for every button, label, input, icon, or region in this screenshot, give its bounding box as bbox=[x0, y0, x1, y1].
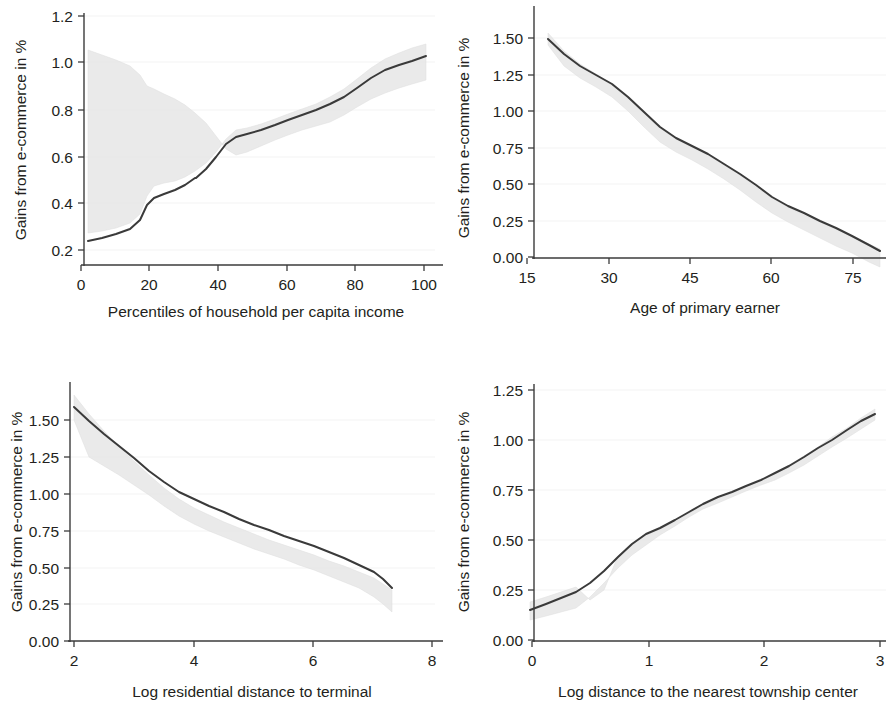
panel-2-x-ticks bbox=[527, 258, 853, 264]
panel-2-gridlines bbox=[534, 38, 886, 221]
y-tick-label: 1.2 bbox=[51, 8, 73, 25]
x-axis-title: Percentiles of household per capita inco… bbox=[108, 303, 404, 320]
x-tick-label: 45 bbox=[681, 269, 698, 286]
panel-township-distance: 0 1 2 3 1.25 1.00 0.75 0.50 0.25 0.00 Ga… bbox=[443, 354, 886, 708]
y-tick-label: 1.00 bbox=[493, 432, 524, 449]
x-tick-label: 80 bbox=[346, 276, 364, 293]
x-axis-title: Log residential distance to terminal bbox=[132, 683, 372, 700]
y-axis-title: Gains from e-commerce in % bbox=[8, 411, 25, 612]
x-axis-title: Log distance to the nearest township cen… bbox=[558, 683, 858, 700]
y-axis-title: Gains from e-commerce in % bbox=[455, 411, 472, 612]
y-tick-label: 1.50 bbox=[493, 30, 524, 47]
x-tick-label: 8 bbox=[428, 652, 437, 669]
panel-2-y-ticks bbox=[528, 38, 534, 257]
y-tick-label: 0.2 bbox=[51, 242, 73, 259]
y-tick-label: 0.00 bbox=[29, 633, 60, 650]
confidence-band bbox=[88, 44, 426, 233]
x-tick-label: 2 bbox=[70, 652, 79, 669]
x-tick-label: 60 bbox=[278, 276, 296, 293]
y-tick-label: 1.25 bbox=[493, 67, 523, 84]
y-tick-label: 1.25 bbox=[493, 382, 523, 399]
panel-income: 0 20 40 60 80 100 1.2 1.0 0.8 0.6 0.4 0.… bbox=[0, 0, 443, 354]
panel-3-y-ticks bbox=[64, 420, 70, 641]
fitted-curve bbox=[74, 407, 392, 588]
y-tick-label: 0.25 bbox=[29, 596, 59, 613]
panel-4-x-ticks bbox=[532, 641, 880, 647]
panel-4-gridlines bbox=[534, 390, 886, 590]
x-tick-label: 3 bbox=[876, 652, 885, 669]
y-tick-label: 0.8 bbox=[51, 102, 73, 119]
y-axis-title: Gains from e-commerce in % bbox=[12, 39, 29, 240]
four-panel-figure: 0 20 40 60 80 100 1.2 1.0 0.8 0.6 0.4 0.… bbox=[0, 0, 886, 708]
y-tick-label: 0.6 bbox=[51, 149, 73, 166]
x-tick-label: 40 bbox=[209, 276, 227, 293]
y-axis-title: Gains from e-commerce in % bbox=[455, 37, 472, 238]
y-tick-label: 0.4 bbox=[51, 195, 73, 212]
x-tick-label: 60 bbox=[762, 269, 780, 286]
x-tick-label: 100 bbox=[411, 276, 437, 293]
y-tick-label: 0.75 bbox=[493, 140, 523, 157]
panel-age: 15 30 45 60 75 1.50 1.25 1.00 0.75 0.50 … bbox=[443, 0, 886, 354]
y-tick-label: 0.50 bbox=[29, 560, 60, 577]
panel-3-x-ticks bbox=[74, 641, 432, 647]
x-tick-label: 15 bbox=[518, 269, 535, 286]
y-tick-label: 0.50 bbox=[493, 532, 524, 549]
x-axis-title: Age of primary earner bbox=[630, 299, 780, 316]
confidence-band bbox=[74, 395, 392, 612]
y-tick-label: 0.50 bbox=[493, 176, 524, 193]
x-tick-label: 0 bbox=[77, 276, 86, 293]
y-tick-label: 0.75 bbox=[29, 523, 59, 540]
fitted-curve bbox=[548, 39, 880, 251]
x-tick-label: 75 bbox=[844, 269, 861, 286]
y-tick-label: 0.00 bbox=[493, 632, 524, 649]
confidence-band bbox=[548, 33, 880, 267]
y-tick-label: 0.25 bbox=[493, 213, 523, 230]
x-tick-label: 1 bbox=[645, 652, 654, 669]
x-tick-label: 20 bbox=[140, 276, 158, 293]
y-tick-label: 1.00 bbox=[493, 103, 524, 120]
y-tick-label: 1.50 bbox=[29, 412, 60, 429]
x-tick-label: 0 bbox=[528, 652, 537, 669]
y-tick-label: 0.25 bbox=[493, 582, 523, 599]
panel-terminal-distance: 2 4 6 8 1.50 1.25 1.00 0.75 0.50 0.25 0.… bbox=[0, 354, 443, 708]
x-tick-label: 6 bbox=[309, 652, 318, 669]
y-tick-label: 1.25 bbox=[29, 449, 59, 466]
y-tick-label: 1.0 bbox=[51, 54, 73, 71]
y-tick-label: 0.00 bbox=[493, 249, 524, 266]
y-tick-label: 1.00 bbox=[29, 486, 60, 503]
x-tick-label: 30 bbox=[600, 269, 618, 286]
panel-1-x-ticks bbox=[81, 265, 424, 271]
panel-1-y-ticks bbox=[78, 16, 84, 250]
x-tick-label: 4 bbox=[190, 652, 199, 669]
x-tick-label: 2 bbox=[760, 652, 769, 669]
y-tick-label: 0.75 bbox=[493, 482, 523, 499]
